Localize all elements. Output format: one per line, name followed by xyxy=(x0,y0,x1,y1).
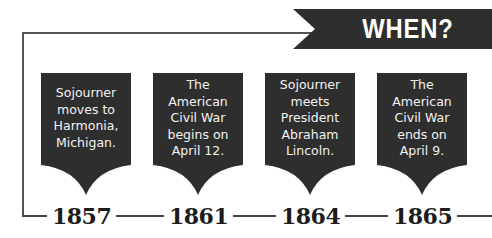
event-text-line: Sojourner xyxy=(41,85,131,102)
event-text-line: Lincoln. xyxy=(265,143,355,160)
event-text-line: meets xyxy=(265,94,355,111)
frame-line-top xyxy=(22,32,322,34)
event-text-line: moves to xyxy=(41,102,131,119)
event-text-line: The xyxy=(377,77,467,94)
event-text-line: April 9. xyxy=(377,143,467,160)
banner-title: WHEN? xyxy=(344,13,472,45)
event-text-line: begins on xyxy=(153,127,243,144)
event-text-line: Civil War xyxy=(153,110,243,127)
event-text-line: The xyxy=(153,77,243,94)
event-card-1861: The American Civil War begins on April 1… xyxy=(153,73,243,195)
event-text-line: Michigan. xyxy=(41,135,131,152)
event-text-line: Civil War xyxy=(377,110,467,127)
year-label-1857: 1857 xyxy=(47,202,116,230)
event-card-1864: Sojourner meets President Abraham Lincol… xyxy=(265,73,355,195)
event-text-line: President xyxy=(265,110,355,127)
event-text-line: ends on xyxy=(377,127,467,144)
event-text-line: American xyxy=(377,94,467,111)
event-text-line: April 12. xyxy=(153,143,243,160)
year-label-1865: 1865 xyxy=(388,202,457,230)
event-card-1865: The American Civil War ends on April 9. xyxy=(377,73,467,195)
event-card-1857: Sojourner moves to Harmonia, Michigan. xyxy=(41,73,131,195)
event-text-line: Abraham xyxy=(265,127,355,144)
event-text-line: American xyxy=(153,94,243,111)
year-label-1864: 1864 xyxy=(276,202,345,230)
event-text-line: Harmonia, xyxy=(41,118,131,135)
frame-line-left xyxy=(22,32,24,217)
year-label-1861: 1861 xyxy=(164,202,233,230)
event-text-line: Sojourner xyxy=(265,77,355,94)
when-banner: WHEN? xyxy=(293,9,492,49)
